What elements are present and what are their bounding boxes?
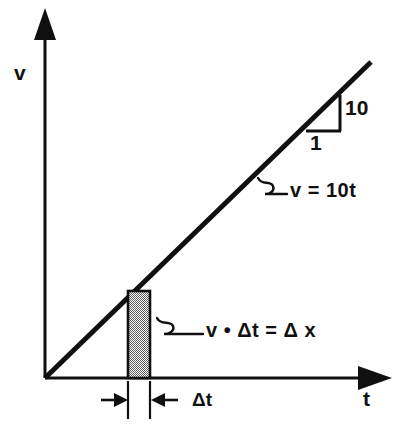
delta-t-label: Δt xyxy=(192,390,212,409)
area-equation-label: v • Δt = Δ x xyxy=(206,320,316,340)
shaded-area-strip xyxy=(128,291,150,378)
figure-canvas xyxy=(0,0,415,433)
area-equation-leader xyxy=(157,318,203,334)
slope-triangle xyxy=(306,95,341,131)
line-equation-label: v = 10t xyxy=(290,180,356,200)
y-axis-label: v xyxy=(14,62,26,83)
arrow-up-icon xyxy=(34,8,56,40)
shaded-area-fill xyxy=(128,291,150,378)
slope-run-label: 1 xyxy=(310,132,322,153)
line-equation-leader xyxy=(258,178,287,194)
velocity-time-figure: v t 10 1 v = 10t v • Δt = Δ x Δt xyxy=(0,0,415,433)
x-axis-label: t xyxy=(363,388,370,409)
dimension-arrow-left-head xyxy=(114,393,128,407)
delta-t-dimension xyxy=(101,381,178,419)
dimension-arrow-right-head xyxy=(151,393,165,407)
slope-rise-label: 10 xyxy=(345,97,368,118)
